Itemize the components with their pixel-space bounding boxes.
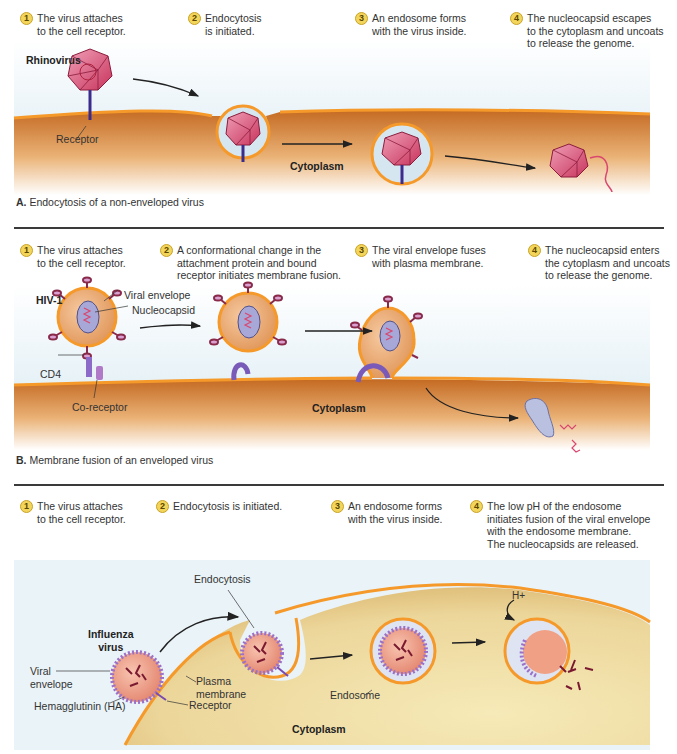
receptor-label: Receptor — [56, 133, 99, 146]
cytoplasm-label: Cytoplasm — [312, 402, 366, 415]
step-text: The viral envelope fuses with plasma mem… — [355, 244, 486, 269]
influenza-virus-label: Influenza virus — [88, 628, 134, 653]
step-badge: 1 — [20, 244, 33, 257]
step-badge: 1 — [20, 500, 33, 513]
step-text: The low pH of the endosome initiates fus… — [470, 500, 650, 550]
step-badge: 4 — [470, 500, 483, 513]
hemagglutinin-label: Hemagglutinin (HA) — [34, 700, 126, 713]
caption-text: Endocytosis of a non-enveloped virus — [29, 196, 204, 208]
step-text: An endosome forms with the virus inside. — [331, 500, 443, 525]
proton-label: H+ — [512, 590, 525, 603]
step-text: An endosome forms with the virus inside. — [355, 12, 467, 37]
panel-a-step-4: 4 The nucleocapsid escapes to the cytopl… — [510, 12, 664, 50]
step-badge: 4 — [528, 244, 541, 257]
divider — [14, 484, 664, 486]
cd4-label: CD4 — [40, 368, 61, 381]
rhinovirus-label: Rhinovirus — [26, 54, 81, 67]
panel-a-step-2: 2 Endocytosis is initiated. — [188, 12, 262, 37]
panel-c-step-1: 1 The virus attaches to the cell recepto… — [20, 500, 126, 525]
panel-b-step-4: 4 The nucleocapsid enters the cytoplasm … — [528, 244, 670, 282]
panel-c-step-2: 2 Endocytosis is initiated. — [156, 500, 282, 513]
endosome-label: Endosome — [330, 689, 380, 702]
receptor-label: Receptor — [189, 699, 232, 712]
panel-a-caption: A. Endocytosis of a non-enveloped virus — [16, 196, 204, 208]
step-text: The virus attaches to the cell receptor. — [20, 12, 126, 37]
panel-c-graphic — [14, 560, 650, 750]
panel-b-step-1: 1 The virus attaches to the cell recepto… — [20, 244, 126, 269]
hiv-label: HIV-1 — [36, 294, 62, 307]
step-badge: 3 — [355, 244, 368, 257]
caption-letter: A. — [16, 196, 27, 208]
step-text: A conformational change in the attachmen… — [160, 244, 341, 282]
nucleocapsid-label: Nucleocapsid — [132, 304, 195, 317]
endocytosis-label: Endocytosis — [194, 573, 251, 586]
caption-text: Membrane fusion of an enveloped virus — [29, 454, 213, 466]
step-badge: 4 — [510, 12, 523, 25]
divider — [14, 227, 664, 229]
panel-c-step-3: 3 An endosome forms with the virus insid… — [331, 500, 443, 525]
cytoplasm-label: Cytoplasm — [290, 160, 344, 173]
panel-a-step-1: 1 The virus attaches to the cell recepto… — [20, 12, 126, 37]
step-text: The nucleocapsid enters the cytoplasm an… — [528, 244, 670, 282]
viral-envelope-label: Viral envelope — [30, 665, 73, 690]
step-text: The virus attaches to the cell receptor. — [20, 500, 126, 525]
step-badge: 2 — [188, 12, 201, 25]
plasma-membrane-label: Plasma membrane — [196, 675, 246, 700]
viral-envelope-label: Viral envelope — [124, 289, 190, 302]
coreceptor-label: Co-receptor — [72, 401, 127, 414]
panel-b-caption: B. Membrane fusion of an enveloped virus — [16, 454, 213, 466]
panel-c-step-4: 4 The low pH of the endosome initiates f… — [470, 500, 650, 550]
step-badge: 1 — [20, 12, 33, 25]
cytoplasm-label: Cytoplasm — [292, 723, 346, 736]
step-text: The virus attaches to the cell receptor. — [20, 244, 126, 269]
step-badge: 3 — [331, 500, 344, 513]
panel-b-step-3: 3 The viral envelope fuses with plasma m… — [355, 244, 486, 269]
step-text: The nucleocapsid escapes to the cytoplas… — [510, 12, 664, 50]
step-badge: 2 — [156, 500, 169, 513]
step-badge: 2 — [160, 244, 173, 257]
step-text: Endocytosis is initiated. — [156, 500, 282, 513]
panel-a-step-3: 3 An endosome forms with the virus insid… — [355, 12, 467, 37]
caption-letter: B. — [16, 454, 27, 466]
panel-b-step-2: 2 A conformational change in the attachm… — [160, 244, 341, 282]
panel-b-graphic — [14, 278, 650, 453]
step-badge: 3 — [355, 12, 368, 25]
